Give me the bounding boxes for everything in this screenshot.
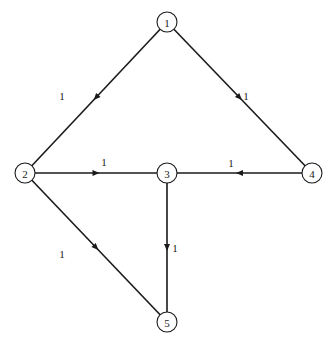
nodes-group: 12345 (15, 12, 322, 332)
node-5: 5 (157, 312, 177, 332)
node-label: 2 (22, 168, 28, 180)
node-label: 4 (309, 168, 315, 180)
node-label: 5 (164, 317, 170, 329)
arrowhead-icon (93, 170, 100, 176)
edge-weight-label: 1 (59, 90, 65, 102)
edge-weight-label: 1 (172, 242, 178, 254)
node-4: 4 (302, 163, 322, 183)
edge-weight-label: 1 (228, 157, 234, 169)
node-1: 1 (157, 12, 177, 32)
directed-graph-diagram: 111111 12345 (0, 0, 336, 348)
edge-weight-label: 1 (59, 248, 65, 260)
arrowhead-icon (164, 244, 170, 251)
edge-weight-label: 1 (243, 90, 249, 102)
arrowhead-icon (236, 170, 243, 176)
edge-weight-label: 1 (101, 156, 107, 168)
node-3: 3 (157, 163, 177, 183)
node-2: 2 (15, 163, 35, 183)
node-label: 1 (164, 17, 170, 29)
node-label: 3 (164, 168, 170, 180)
